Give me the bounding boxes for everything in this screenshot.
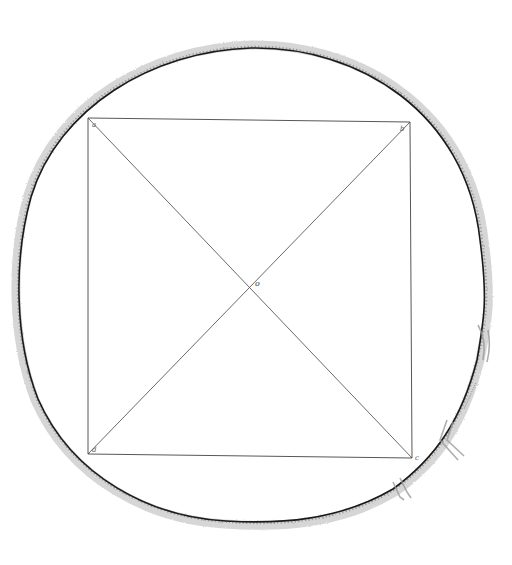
corner-label-top-right: b xyxy=(400,125,405,133)
diagonal-2 xyxy=(88,122,410,454)
diagram-canvas: ············· a b c d o xyxy=(0,0,512,565)
branch-channels xyxy=(393,325,489,500)
center-label: o xyxy=(255,279,260,288)
corner-label-bottom-left: d xyxy=(92,446,97,454)
edge-annotation: ············· xyxy=(461,381,480,411)
corner-label-bottom-right: c xyxy=(415,454,419,462)
diagonal-1 xyxy=(88,118,412,458)
corner-label-top-left: a xyxy=(92,121,96,129)
